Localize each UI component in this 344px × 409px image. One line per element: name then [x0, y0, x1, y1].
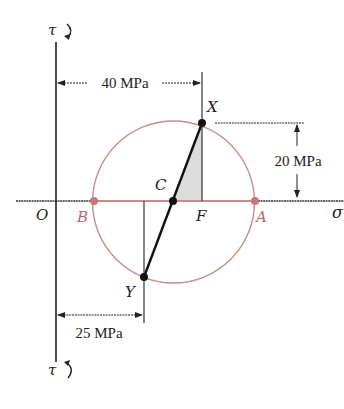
label-y: Y	[125, 283, 137, 301]
label-c: C	[155, 176, 167, 194]
label-f: F	[195, 207, 207, 225]
sigma-label: σ	[332, 203, 344, 222]
dimension-20mpa: 20 MPa	[215, 123, 322, 197]
dimension-25mpa-label: 25 MPa	[75, 325, 122, 341]
point-c	[169, 197, 177, 205]
dimension-40mpa-label: 40 MPa	[101, 75, 148, 91]
dimension-40mpa: 40 MPa	[58, 75, 200, 91]
point-b	[90, 197, 98, 205]
tau-top-label: τ	[48, 21, 71, 40]
point-a	[251, 197, 259, 205]
label-a: A	[254, 208, 267, 226]
label-b: B	[76, 208, 88, 226]
label-x: X	[206, 98, 219, 116]
svg-text:τ: τ	[48, 361, 57, 379]
point-y	[140, 273, 148, 281]
point-x	[198, 119, 206, 127]
svg-text:τ: τ	[48, 21, 57, 39]
tau-bottom-label: τ	[48, 360, 71, 379]
dimension-20mpa-label: 20 MPa	[274, 153, 321, 169]
dimension-25mpa: 25 MPa	[58, 315, 142, 341]
origin-label: O	[36, 206, 48, 224]
mohr-circle-diagram: 40 MPa 20 MPa 25 MPa X Y C F A B O σ τ τ	[0, 0, 344, 409]
